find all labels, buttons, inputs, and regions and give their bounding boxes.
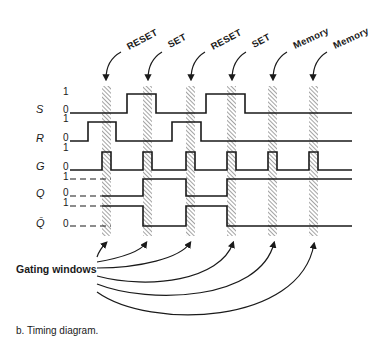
annotation-memory-2: Memory bbox=[331, 25, 371, 51]
level-q-1: 1 bbox=[63, 171, 69, 182]
signal-label-qbar: Q̄ bbox=[36, 217, 45, 229]
level-qbar-1: 1 bbox=[63, 197, 69, 208]
arrow-icon bbox=[97, 243, 274, 295]
arrow-icon bbox=[97, 243, 233, 282]
signal-label-s: S bbox=[36, 103, 44, 115]
arrow-icon bbox=[232, 52, 246, 79]
annotation-memory-1: Memory bbox=[291, 25, 331, 51]
figure-caption: b. Timing diagram. bbox=[16, 325, 98, 336]
arrow-icon bbox=[313, 52, 327, 79]
annotation-set-2: SET bbox=[250, 31, 272, 50]
arrow-icon bbox=[273, 52, 287, 79]
arrow-icon bbox=[148, 52, 162, 79]
annotation-reset-2: RESET bbox=[209, 26, 243, 51]
window-annotations: RESET SET RESET SET Memory Memory bbox=[106, 25, 371, 79]
annotation-set-1: SET bbox=[166, 31, 188, 50]
signal-label-r: R bbox=[36, 132, 44, 144]
gating-window-3 bbox=[186, 86, 195, 236]
signal-label-q: Q bbox=[36, 187, 45, 199]
arrow-icon bbox=[97, 243, 146, 262]
arrow-icon bbox=[106, 52, 121, 79]
arrow-icon bbox=[97, 244, 314, 315]
arrow-icon bbox=[97, 243, 106, 257]
gating-window-2 bbox=[143, 86, 152, 236]
gating-window-6 bbox=[309, 86, 318, 236]
timing-diagram: S R G Q Q̄ 1 0 1 0 1 0 1 0 1 0 RESET SET… bbox=[0, 0, 382, 349]
level-r-1: 1 bbox=[63, 113, 69, 124]
level-s-1: 1 bbox=[63, 86, 69, 97]
gating-window-1 bbox=[102, 86, 111, 236]
arrow-icon bbox=[97, 243, 190, 268]
gating-windows-label: Gating windows bbox=[16, 263, 97, 275]
gating-fan-arrows bbox=[97, 243, 314, 315]
gating-window-5 bbox=[268, 86, 277, 236]
gating-window-4 bbox=[227, 86, 236, 236]
level-g-1: 1 bbox=[63, 142, 69, 153]
level-qbar-0: 0 bbox=[63, 218, 69, 229]
arrow-icon bbox=[191, 52, 205, 79]
waveform-g bbox=[70, 152, 352, 170]
gating-windows bbox=[102, 86, 318, 236]
signal-label-g: G bbox=[36, 160, 45, 172]
annotation-reset-1: RESET bbox=[125, 26, 159, 51]
